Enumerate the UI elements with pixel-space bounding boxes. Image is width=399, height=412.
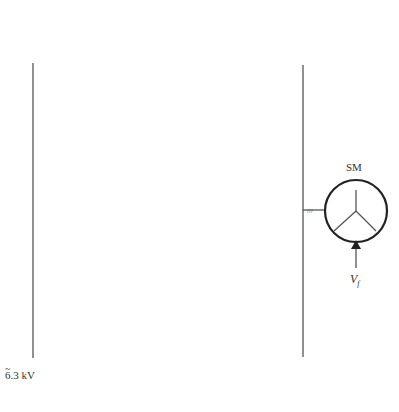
bus-voltage-label: 6.3 kV: [5, 369, 35, 381]
excitation-subscript: f: [357, 279, 361, 288]
three-phase-tick: ///: [307, 207, 313, 215]
cascaded-drive-diagram: ~ 6.3 kV /// SM Vf 6.3/5 kV, 0°: [0, 0, 399, 412]
synchronous-machine: SM Vf: [325, 161, 387, 288]
svg-text:Vf: Vf: [350, 272, 361, 288]
machine-label: SM: [346, 161, 362, 173]
